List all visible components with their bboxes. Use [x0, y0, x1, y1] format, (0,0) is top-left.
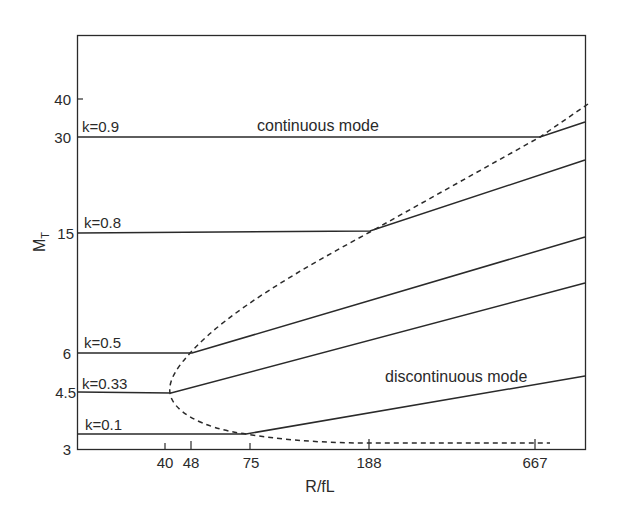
x-tick-48: 48 — [183, 454, 200, 471]
chart-canvas: 40 30 15 6 4.5 3 40 48 75 188 667 R/fL M… — [0, 0, 620, 513]
label-k-0-5: k=0.5 — [84, 334, 121, 351]
y-axis-label-sub: T — [39, 232, 51, 239]
series-k-0-5 — [78, 237, 585, 353]
label-k-0-1: k=0.1 — [85, 416, 122, 433]
label-k-0-33: k=0.33 — [82, 375, 127, 392]
plot-frame — [78, 36, 586, 450]
x-tick-40: 40 — [157, 454, 174, 471]
x-axis-label: R/fL — [305, 478, 334, 495]
series-k-0-8 — [78, 160, 585, 233]
x-axis-tick-labels: 40 48 75 188 667 — [157, 454, 548, 471]
continuous-mode-label: continuous mode — [257, 117, 379, 134]
y-tick-40: 40 — [54, 91, 71, 108]
x-axis-ticks — [165, 439, 535, 449]
y-tick-30: 30 — [54, 129, 71, 146]
series-lines — [78, 122, 585, 434]
mode-boundary-curve — [170, 104, 588, 443]
x-tick-667: 667 — [522, 454, 547, 471]
x-tick-188: 188 — [356, 454, 381, 471]
y-tick-6: 6 — [63, 345, 71, 362]
y-axis-label-main: M — [31, 239, 48, 252]
y-tick-15: 15 — [57, 225, 74, 242]
svg-text:MT: MT — [31, 232, 51, 252]
y-tick-4-5: 4.5 — [55, 384, 76, 401]
label-k-0-8: k=0.8 — [84, 214, 121, 231]
x-tick-75: 75 — [243, 454, 260, 471]
label-k-0-9: k=0.9 — [82, 118, 119, 135]
y-axis-tick-labels: 40 30 15 6 4.5 3 — [54, 91, 76, 458]
y-axis-label: MT — [31, 232, 51, 252]
discontinuous-mode-label: discontinuous mode — [385, 368, 527, 385]
y-tick-3: 3 — [63, 441, 71, 458]
